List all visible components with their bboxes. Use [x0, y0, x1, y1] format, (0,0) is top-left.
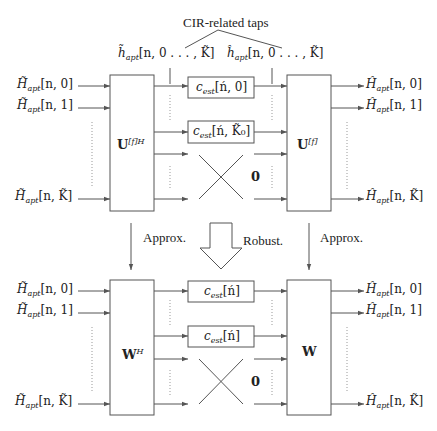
label-U-fH: U[f]H	[117, 135, 145, 152]
tap-sym: h̃	[118, 46, 126, 60]
bottom-output-K: Ĥapt[n, K̃]	[366, 394, 423, 413]
tap-sym: ĥ	[227, 46, 235, 60]
label-U-f: U[f]	[297, 135, 318, 152]
top-input-1: H̃apt[n, 1]	[17, 98, 73, 117]
diagram-canvas	[0, 0, 437, 431]
top-output-K: Ĥapt[n, K̃]	[366, 189, 423, 208]
top-input-0: H̃apt[n, 0]	[17, 77, 73, 96]
robust-label: Robust.	[243, 234, 283, 248]
bottom-input-K: H̃apt[n, K̃]	[15, 394, 72, 413]
tap-label-hat: ĥapt[n, 0 . . . , K̃]	[227, 46, 324, 65]
cir-annotation: CIR-related taps	[183, 16, 269, 30]
label-W: W	[302, 345, 317, 359]
zero-label-bottom: 0	[251, 375, 260, 389]
bottom-output-0: Ĥapt[n, 0]	[366, 282, 422, 301]
bottom-output-1: Ĥapt[n, 1]	[366, 303, 422, 322]
top-output-0: Ĥapt[n, 0]	[366, 77, 422, 96]
label-W-H: WH	[122, 345, 144, 362]
bottom-input-1: H̃apt[n, 1]	[17, 303, 73, 322]
top-input-K: H̃apt[n, K̃]	[15, 189, 72, 208]
zero-label-top: 0	[251, 170, 260, 184]
approx-label-right: Approx.	[320, 231, 363, 245]
cest-label-b2: cest[ń]	[204, 329, 240, 348]
cest-label-0: cest[ń, 0]	[196, 80, 247, 99]
top-output-1: Ĥapt[n, 1]	[366, 98, 422, 117]
cest-label-b1: cest[ń]	[204, 284, 240, 303]
tap-label-tilde: h̃apt[n, 0 . . . , K̃]	[118, 46, 215, 65]
robust-hollow-arrow	[200, 223, 242, 269]
cest-label-K0: cest[ń, K̃₀]	[193, 124, 250, 143]
approx-label-left: Approx.	[143, 231, 186, 245]
bottom-input-0: H̃apt[n, 0]	[17, 282, 73, 301]
